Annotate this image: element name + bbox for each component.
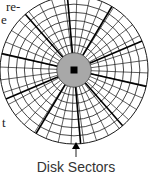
text-fragment: re- [6, 0, 20, 13]
disk-diagram [0, 0, 153, 177]
spindle-hole [71, 67, 78, 74]
sector-line [0, 67, 57, 69]
sector-line [8, 78, 58, 105]
sector-line [1, 72, 57, 80]
sector-line [58, 87, 70, 143]
disk-sectors-label: Disk Sectors [36, 160, 116, 174]
sector-line [90, 47, 144, 64]
sector-line [79, 86, 96, 140]
sector-line [71, 87, 73, 144]
sector-line [40, 4, 67, 54]
sector-line [82, 85, 109, 135]
text-fragment: e [1, 13, 7, 26]
text-fragment: t [2, 116, 6, 129]
sector-line [51, 0, 68, 54]
sector-line [4, 75, 58, 92]
sector-line [91, 60, 147, 68]
sector-line [91, 71, 148, 73]
sector-line [89, 36, 139, 63]
